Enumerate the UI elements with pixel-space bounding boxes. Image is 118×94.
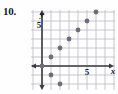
data-point (58, 46, 63, 51)
figure-container: 10. (0, 0, 118, 94)
data-point (49, 55, 54, 60)
coordinate-plane-svg: y x 5 5 (30, 8, 116, 92)
coordinate-graph: y x 5 5 (30, 8, 116, 92)
problem-number-label: 10. (3, 6, 16, 17)
x-axis-tick-label-5: 5 (85, 67, 90, 77)
data-point (40, 64, 45, 69)
data-point (76, 28, 81, 33)
data-point (67, 37, 72, 42)
data-point (49, 73, 54, 78)
data-point (58, 82, 63, 87)
y-axis-tick-label-5: 5 (37, 20, 42, 30)
x-axis-label: x (110, 66, 116, 76)
data-point (94, 10, 99, 15)
data-point (85, 19, 90, 24)
